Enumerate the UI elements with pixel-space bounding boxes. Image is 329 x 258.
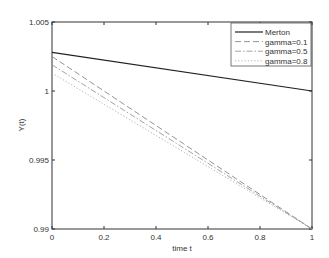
x-tick-label: 0 — [50, 233, 55, 242]
y-tick-label: 1.005 — [29, 18, 50, 27]
line-chart: 0.990.99511.005 00.20.40.60.81 time t Y(… — [0, 0, 329, 258]
x-tick-label: 1 — [310, 233, 315, 242]
x-tick-label: 0.2 — [98, 233, 110, 242]
legend-label: gamma=0.1 — [265, 38, 308, 47]
x-axis-label: time t — [172, 244, 192, 253]
y-tick-label: 0.99 — [33, 225, 49, 234]
x-tick-label: 0.6 — [202, 233, 214, 242]
legend-label: Merton — [265, 28, 290, 37]
x-tick-label: 0.8 — [254, 233, 266, 242]
legend: Mertongamma=0.1gamma=0.5gamma=0.8 — [231, 23, 311, 66]
legend-label: gamma=0.5 — [265, 47, 308, 56]
y-axis-label: Y(t) — [17, 118, 26, 131]
x-tick-label: 0.4 — [150, 233, 162, 242]
y-tick-label: 1 — [45, 87, 50, 96]
y-tick-label: 0.995 — [29, 156, 50, 165]
legend-label: gamma=0.8 — [265, 57, 308, 66]
